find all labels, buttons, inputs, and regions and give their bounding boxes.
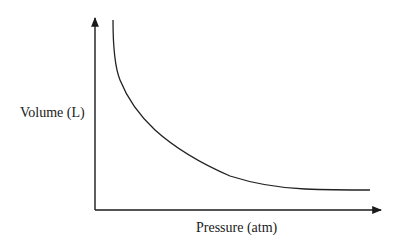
y-axis-label: Volume (L) <box>20 106 85 120</box>
x-axis-label: Pressure (atm) <box>196 221 277 235</box>
chart <box>0 0 396 243</box>
data-curve <box>113 20 370 190</box>
